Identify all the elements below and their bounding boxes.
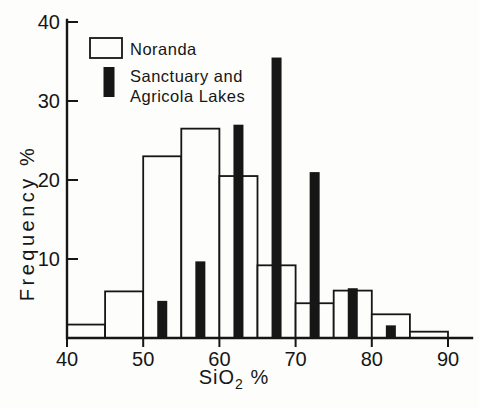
x-tick-label: 50 (132, 348, 154, 370)
y-tick-label: 30 (38, 90, 60, 112)
x-axis-title-main: SiO (199, 366, 235, 388)
legend-label-sanctuary-line1: Sanctuary and (130, 67, 243, 85)
legend-label-sanctuary-line2: Agricola Lakes (130, 87, 245, 105)
legend-sanctuary-swatch (104, 67, 115, 97)
legend: Noranda Sanctuary and Agricola Lakes (90, 38, 245, 105)
sanctuary-agricola-bar (348, 288, 358, 338)
y-tick-label: 20 (38, 169, 60, 191)
sanctuary-agricola-bar (233, 125, 243, 338)
x-tick-label: 80 (361, 348, 383, 370)
sanctuary-agricola-bar (195, 261, 205, 338)
y-axis-title: Frequency % (16, 145, 38, 301)
y-tick-label: 10 (38, 248, 60, 270)
sanctuary-agricola-bar (157, 301, 167, 338)
x-tick-label: 40 (56, 348, 78, 370)
legend-noranda-swatch (90, 38, 122, 58)
x-axis-title: SiO2 % (199, 366, 269, 392)
legend-label-noranda: Noranda (130, 40, 197, 58)
y-tick-label: 40 (38, 11, 60, 33)
x-tick-label: 90 (437, 348, 459, 370)
chart-svg: 10203040405060708090 Noranda Sanctuary a… (0, 0, 479, 408)
x-axis-title-suffix: % (244, 366, 269, 388)
sanctuary-agricola-bar (310, 172, 320, 338)
x-axis-title-subscript: 2 (235, 376, 244, 392)
noranda-series (67, 129, 448, 338)
histogram-figure: 10203040405060708090 Noranda Sanctuary a… (0, 0, 479, 408)
x-tick-label: 70 (284, 348, 306, 370)
noranda-bar (105, 291, 143, 338)
sanctuary-agricola-bar (386, 325, 396, 338)
sanctuary-agricola-bar (272, 58, 282, 338)
noranda-bar (67, 325, 105, 338)
